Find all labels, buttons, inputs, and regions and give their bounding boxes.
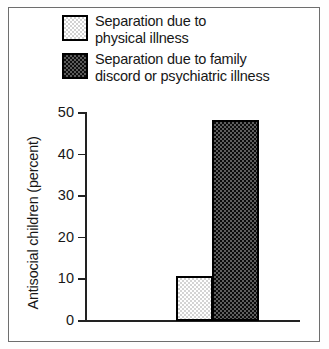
y-tick-label-20: 20 — [44, 230, 74, 245]
y-tick-mark-40 — [78, 154, 85, 156]
y-tick-mark-50 — [78, 112, 85, 114]
y-axis-line — [85, 112, 87, 322]
y-tick-mark-30 — [78, 195, 85, 197]
y-tick-label-10: 10 — [44, 271, 74, 286]
y-tick-label-50: 50 — [44, 105, 74, 120]
y-tick-mark-20 — [78, 237, 85, 239]
y-tick-label-40: 40 — [44, 147, 74, 162]
y-tick-mark-10 — [78, 278, 85, 280]
bar-family-discord — [212, 120, 259, 321]
plot-area: Antisocial children (percent) 50 40 30 2… — [0, 0, 329, 349]
bar-physical-illness — [176, 276, 213, 321]
y-tick-label-0: 0 — [44, 313, 74, 328]
y-tick-label-30: 30 — [44, 188, 74, 203]
y-axis-title: Antisocial children (percent) — [25, 108, 41, 338]
y-tick-mark-0 — [78, 320, 85, 322]
chart-figure: Separation due to physical illness Separ… — [0, 0, 329, 349]
